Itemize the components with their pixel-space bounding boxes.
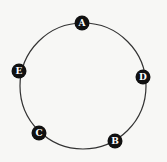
node-label: C [35,128,42,138]
node-e: E [12,64,27,79]
node-c: C [32,126,47,141]
node-label: B [111,136,119,146]
node-d: D [136,70,151,85]
node-a: A [75,16,90,31]
node-b: B [108,134,123,149]
node-label: A [78,18,87,28]
node-label: E [16,66,23,76]
ring-diagram: ADBCE [0,0,167,162]
node-label: D [139,72,147,82]
